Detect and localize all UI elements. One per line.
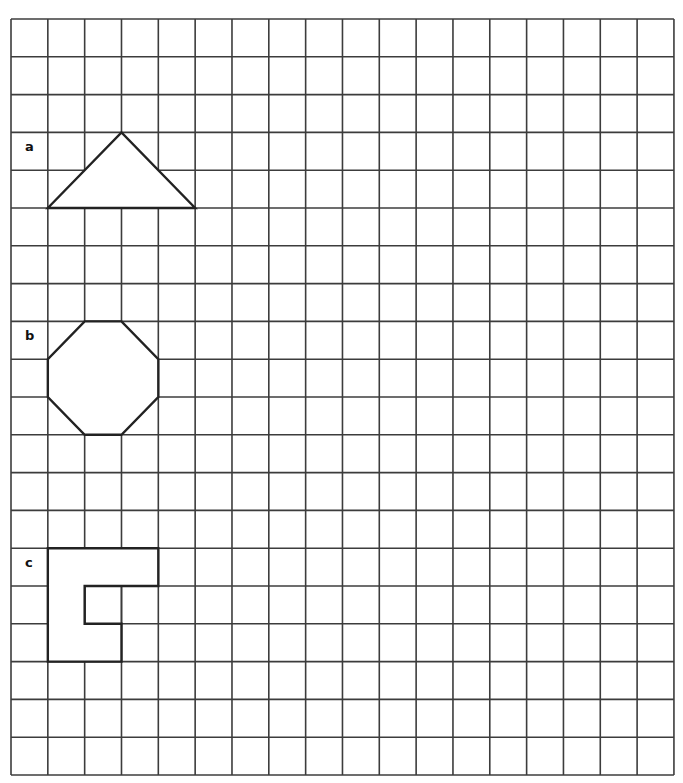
shape-octagon — [48, 321, 158, 434]
shape-label-a: a — [25, 139, 34, 154]
c-shape-notch-cell — [85, 586, 122, 624]
labels-layer: abc — [25, 139, 34, 570]
shape-c-shape — [48, 548, 158, 661]
shape-label-b: b — [25, 328, 34, 343]
grid-sheet: abc — [0, 0, 683, 783]
shape-label-c: c — [25, 555, 33, 570]
